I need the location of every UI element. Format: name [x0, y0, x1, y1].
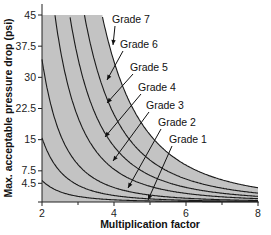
y-tick-label: 22.5 [16, 102, 37, 114]
grade-5-label: Grade 5 [130, 61, 168, 73]
y-tick-label: 7.5 [21, 164, 36, 176]
grade-3-label: Grade 3 [146, 99, 184, 111]
x-tick-label: 8 [255, 207, 261, 219]
y-tick-label: 4.5 [21, 177, 36, 189]
grade-2-label: Grade 2 [158, 116, 196, 128]
y-axis-ticks: 4.57.51522.53037.545 [16, 9, 42, 189]
y-tick-label: 37.5 [16, 40, 37, 52]
x-tick-label: 2 [39, 207, 45, 219]
y-axis-title: Max. acceptable pressure drop (psi) [2, 18, 14, 197]
x-axis-ticks: 2468 [39, 202, 261, 219]
grade-6-label: Grade 6 [120, 38, 158, 50]
y-tick-label: 30 [24, 71, 36, 83]
grade-4-label: Grade 4 [138, 81, 176, 93]
grade-1-label: Grade 1 [169, 133, 207, 145]
grade-7-label: Grade 7 [112, 13, 150, 25]
x-axis-title: Multiplication factor [100, 218, 200, 230]
pressure-drop-chart: 4.57.51522.53037.545 2468 Grade 7Grade 6… [0, 0, 271, 235]
y-tick-label: 45 [24, 9, 36, 21]
y-tick-label: 15 [24, 133, 36, 145]
